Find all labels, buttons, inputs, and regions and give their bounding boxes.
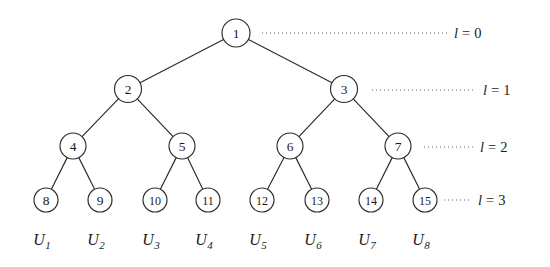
node-label-14: 14 bbox=[365, 194, 377, 208]
level-variable-0: l bbox=[454, 25, 458, 41]
leaf-group-base-4: U bbox=[195, 231, 208, 248]
tree-node-10[interactable]: 10 bbox=[143, 188, 167, 212]
leaf-group-label-2: U2 bbox=[87, 231, 105, 251]
leaf-group-base-1: U bbox=[33, 231, 46, 248]
level-value-0: 0 bbox=[474, 25, 481, 41]
tree-node-15[interactable]: 15 bbox=[413, 188, 437, 212]
tree-node-12[interactable]: 12 bbox=[250, 188, 274, 212]
leaf-group-base-8: U bbox=[412, 231, 425, 248]
tree-nodes-group: 123456789101112131415 bbox=[34, 19, 437, 212]
leaf-group-subscript-2: 2 bbox=[99, 239, 105, 251]
tree-node-9[interactable]: 9 bbox=[88, 188, 112, 212]
leaf-group-subscript-4: 4 bbox=[207, 239, 213, 251]
level-label-0: l=0 bbox=[454, 25, 481, 41]
leaf-group-label-7: U7 bbox=[358, 231, 376, 251]
leaf-group-base-6: U bbox=[304, 231, 317, 248]
node-label-2: 2 bbox=[125, 82, 132, 97]
leaf-group-subscript-5: 5 bbox=[261, 239, 267, 251]
tree-diagram-canvas: 123456789101112131415 l=0l=1l=2l=3 U1U2U… bbox=[0, 0, 550, 267]
tree-edge-5-10 bbox=[160, 158, 176, 190]
tree-edge-2-5 bbox=[137, 99, 173, 137]
leaf-group-subscript-6: 6 bbox=[316, 239, 322, 251]
tree-node-2[interactable]: 2 bbox=[115, 76, 142, 103]
binary-tree-figure: 123456789101112131415 l=0l=1l=2l=3 U1U2U… bbox=[0, 0, 550, 267]
tree-node-8[interactable]: 8 bbox=[34, 188, 58, 212]
tree-edge-6-13 bbox=[296, 158, 312, 190]
leaf-group-subscript-8: 8 bbox=[424, 239, 430, 251]
level-equals-1: = bbox=[491, 82, 499, 98]
node-label-15: 15 bbox=[419, 194, 431, 208]
level-leader-lines-group bbox=[262, 33, 476, 200]
tree-edge-5-11 bbox=[188, 158, 203, 189]
leaf-group-labels-group: U1U2U3U4U5U6U7U8 bbox=[33, 231, 430, 251]
leaf-group-subscript-3: 3 bbox=[153, 239, 160, 251]
tree-node-5[interactable]: 5 bbox=[169, 133, 195, 159]
tree-edge-3-7 bbox=[353, 99, 389, 137]
level-labels-group: l=0l=1l=2l=3 bbox=[454, 25, 510, 208]
node-label-10: 10 bbox=[149, 194, 161, 208]
leaf-group-label-1: U1 bbox=[33, 231, 51, 251]
leaf-group-base-7: U bbox=[358, 231, 371, 248]
tree-edge-3-6 bbox=[299, 99, 335, 137]
level-label-1: l=1 bbox=[483, 82, 510, 98]
level-value-1: 1 bbox=[503, 82, 510, 98]
node-label-1: 1 bbox=[233, 26, 240, 41]
node-label-11: 11 bbox=[202, 194, 214, 208]
tree-edge-6-12 bbox=[268, 158, 285, 190]
tree-edge-4-9 bbox=[79, 158, 95, 190]
tree-edge-1-3 bbox=[248, 39, 332, 82]
node-label-3: 3 bbox=[341, 82, 348, 97]
tree-edge-7-15 bbox=[404, 158, 420, 190]
tree-node-1[interactable]: 1 bbox=[222, 19, 250, 47]
node-label-5: 5 bbox=[179, 139, 186, 154]
tree-node-14[interactable]: 14 bbox=[359, 188, 383, 212]
level-label-2: l=2 bbox=[480, 139, 507, 155]
level-value-2: 2 bbox=[500, 139, 507, 155]
tree-edge-1-2 bbox=[140, 39, 224, 82]
level-equals-2: = bbox=[488, 139, 496, 155]
tree-node-7[interactable]: 7 bbox=[385, 133, 411, 159]
leaf-group-subscript-1: 1 bbox=[45, 239, 51, 251]
node-label-13: 13 bbox=[311, 194, 323, 208]
level-equals-3: = bbox=[486, 192, 494, 208]
node-label-7: 7 bbox=[395, 139, 402, 154]
node-label-4: 4 bbox=[70, 139, 77, 154]
tree-node-11[interactable]: 11 bbox=[196, 188, 220, 212]
level-variable-1: l bbox=[483, 82, 487, 98]
level-variable-2: l bbox=[480, 139, 484, 155]
tree-edge-4-8 bbox=[51, 158, 67, 190]
node-label-9: 9 bbox=[97, 193, 104, 208]
level-variable-3: l bbox=[478, 192, 482, 208]
node-label-12: 12 bbox=[256, 194, 268, 208]
tree-edges-group bbox=[51, 39, 419, 189]
leaf-group-subscript-7: 7 bbox=[370, 239, 376, 251]
leaf-group-label-5: U5 bbox=[249, 231, 267, 251]
leaf-group-label-3: U3 bbox=[142, 231, 160, 251]
leaf-group-label-8: U8 bbox=[412, 231, 430, 251]
level-equals-0: = bbox=[462, 25, 470, 41]
node-label-8: 8 bbox=[43, 193, 50, 208]
level-label-3: l=3 bbox=[478, 192, 505, 208]
leaf-group-base-5: U bbox=[249, 231, 262, 248]
leaf-group-base-3: U bbox=[142, 231, 155, 248]
tree-node-13[interactable]: 13 bbox=[305, 188, 329, 212]
level-value-3: 3 bbox=[498, 192, 505, 208]
leaf-group-base-2: U bbox=[87, 231, 100, 248]
tree-edge-2-4 bbox=[82, 99, 119, 137]
tree-node-4[interactable]: 4 bbox=[60, 133, 86, 159]
tree-node-3[interactable]: 3 bbox=[331, 76, 358, 103]
node-label-6: 6 bbox=[287, 139, 294, 154]
leaf-group-label-6: U6 bbox=[304, 231, 322, 251]
tree-node-6[interactable]: 6 bbox=[277, 133, 303, 159]
tree-edge-7-14 bbox=[376, 158, 392, 190]
leaf-group-label-4: U4 bbox=[195, 231, 213, 251]
